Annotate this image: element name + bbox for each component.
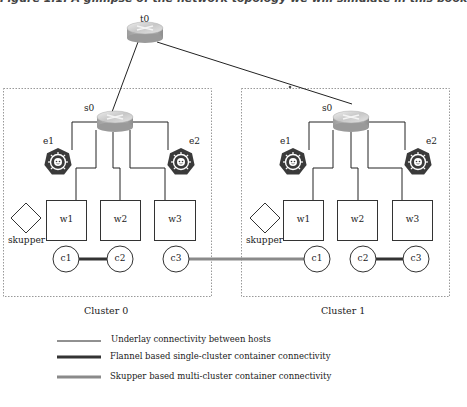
router-icon-cluster1-s0 [333,111,369,132]
cluster1-skupper-label: skupper [246,235,283,245]
cluster1-c2-label: c2 [350,253,376,263]
cluster0-c3-label: c3 [163,253,189,263]
cluster1-c1-label: c1 [304,253,330,263]
router-icon-t0 [127,22,163,43]
cluster1-s0-label: s0 [322,103,332,113]
cluster0-s0-label: s0 [84,103,94,113]
cluster0-w2-label: w2 [100,214,141,224]
cluster0-c1-label: c1 [53,253,79,263]
link-t0-cluster1-s0 [157,42,352,104]
diamond-icon-cluster0-skupper [11,203,41,233]
cluster0-e2-label: e2 [189,136,200,146]
cluster1-e2-label: e2 [426,136,437,146]
cluster0-w3-label: w3 [154,214,196,224]
kubernetes-icon-cluster0-e2 [167,148,194,175]
router-icon-cluster0-s0 [97,111,133,132]
legend-skupper-text: Skupper based multi-cluster container co… [110,371,331,381]
cluster1-c3-label: c3 [403,253,429,263]
diamond-icon-cluster1-skupper [250,203,280,233]
cluster1-e1-label: e1 [280,136,291,146]
kubernetes-icon-cluster1-e1 [279,148,306,175]
link-t0-cluster0-s0 [112,42,138,112]
legend-underlay-text: Underlay connectivity between hosts [111,334,271,344]
legend-flannel-text: Flannel based single-cluster container c… [110,351,331,361]
cluster-0-label: Cluster 0 [84,305,128,316]
cluster0-e1-label: e1 [43,136,54,146]
cluster1-w2-label: w2 [337,214,378,224]
cluster-1-label: Cluster 1 [321,305,365,316]
cluster-1-underlay [309,122,405,200]
cluster0-c2-label: c2 [107,253,133,263]
kubernetes-icon-cluster0-e1 [44,148,71,175]
cluster1-w1-label: w1 [283,214,324,224]
cluster1-w3-label: w3 [392,214,433,224]
kubernetes-icon-cluster1-e2 [404,148,431,175]
cluster-0-underlay [72,122,168,200]
cluster0-skupper-label: skupper [8,235,45,245]
cluster0-w1-label: w1 [46,214,87,224]
t0-label: t0 [140,14,149,24]
